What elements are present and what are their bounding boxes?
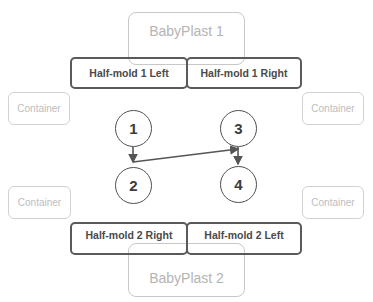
arrow-2-to-3 — [133, 149, 238, 162]
node-1: 1 — [115, 110, 152, 147]
node-2: 2 — [115, 167, 152, 204]
node-3: 3 — [220, 110, 257, 147]
node-label: 3 — [234, 120, 242, 137]
node-4: 4 — [220, 166, 257, 203]
node-label: 2 — [129, 177, 137, 194]
flow-arrows — [0, 0, 373, 302]
node-label: 4 — [234, 176, 242, 193]
node-label: 1 — [129, 120, 137, 137]
